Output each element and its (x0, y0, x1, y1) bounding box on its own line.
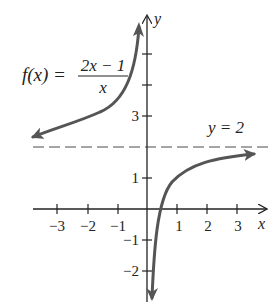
function-label: f(x) = 2x − 1 x (22, 56, 128, 97)
x-tick-label: −2 (80, 218, 96, 234)
x-tick-label: 2 (204, 218, 212, 234)
x-tick-label: 1 (175, 218, 183, 234)
function-denominator: x (98, 78, 107, 97)
y-tick-label: 3 (132, 108, 140, 124)
function-graph: −3 −2 −1 1 2 3 −2 −1 1 3 x y f(x) = 2x −… (0, 0, 280, 308)
x-tick-label: 3 (234, 218, 242, 234)
function-numerator: 2x − 1 (81, 56, 126, 75)
x-tick-label: −3 (49, 218, 65, 234)
x-axis-label: x (257, 215, 265, 232)
y-axis-label: y (152, 10, 162, 28)
y-tick-label: −2 (123, 263, 139, 279)
y-tick-label: −1 (123, 232, 139, 248)
y-tick-label: 1 (132, 170, 140, 186)
function-lhs: f(x) = (22, 64, 66, 86)
asymptote-label: y = 2 (206, 118, 245, 137)
